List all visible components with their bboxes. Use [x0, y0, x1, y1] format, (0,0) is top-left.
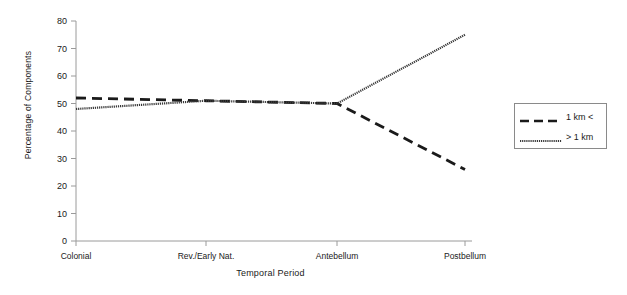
chart-figure: 01020304050607080 ColonialRev./Early Nat…	[0, 0, 627, 295]
legend-item-0: 1 km <	[515, 108, 608, 126]
legend-item-1: > 1 km	[515, 128, 608, 146]
x-tick-label: Postbellum	[405, 251, 525, 261]
chart-series-group	[76, 35, 465, 170]
y-tick-label: 50	[45, 99, 67, 109]
legend-swatch-dotted-icon	[520, 132, 562, 142]
y-tick-label: 10	[45, 209, 67, 219]
x-axis-title: Temporal Period	[76, 268, 465, 278]
y-tick-label: 80	[45, 16, 67, 26]
chart-series-line	[76, 98, 465, 170]
y-tick-label: 40	[45, 126, 67, 136]
x-tick-label: Antebellum	[277, 251, 397, 261]
chart-series-line	[76, 35, 465, 109]
y-tick-label: 70	[45, 44, 67, 54]
x-tick-label: Rev./Early Nat.	[146, 251, 266, 261]
legend-label-1: > 1 km	[566, 132, 593, 142]
chart-legend: 1 km < > 1 km	[514, 103, 607, 149]
x-tick-label: Colonial	[16, 251, 136, 261]
legend-label-0: 1 km <	[566, 112, 593, 122]
x-axis-ticks	[76, 241, 465, 246]
y-tick-label: 20	[45, 181, 67, 191]
y-tick-label: 60	[45, 71, 67, 81]
legend-swatch-dashed-icon	[520, 112, 562, 122]
y-tick-label: 30	[45, 154, 67, 164]
y-axis-title: Percentage of Components	[23, 15, 33, 195]
chart-axes	[76, 21, 472, 241]
y-axis-ticks	[71, 21, 76, 241]
y-tick-label: 0	[45, 236, 67, 246]
